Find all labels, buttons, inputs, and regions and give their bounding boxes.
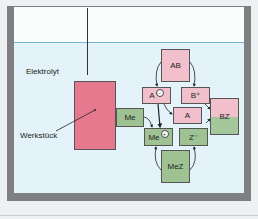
caption-divider	[0, 215, 258, 216]
workpiece-pointer-line	[56, 110, 95, 131]
reaction-arrows	[0, 0, 258, 219]
